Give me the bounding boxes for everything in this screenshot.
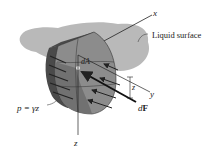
- dF-label: dF: [138, 103, 149, 113]
- z-axis-label: z: [73, 138, 78, 148]
- hydrostatic-pressure-diagram: x Liquid surface dA z y dF p = γz z: [0, 0, 224, 151]
- pressure-equation-label: p = γz: [16, 103, 40, 113]
- y-axis-label: y: [149, 89, 154, 99]
- liquid-surface-label: Liquid surface: [152, 30, 202, 40]
- x-axis-label: x: [152, 8, 157, 18]
- dA-label: dA: [81, 57, 90, 66]
- dF-label-F: F: [143, 103, 149, 113]
